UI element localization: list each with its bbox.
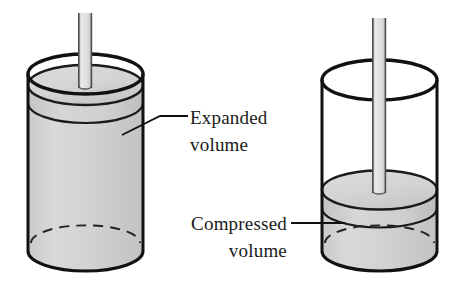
expanded-piston-rod	[78, 13, 92, 89]
diagram-canvas: Expanded volume Compressed volume	[0, 0, 455, 284]
compressed-piston-rod	[372, 18, 386, 194]
expanded-cylinder-group	[28, 13, 143, 271]
compressed-cylinder-group	[322, 18, 437, 271]
expanded-volume-label-line2: volume	[190, 134, 248, 155]
piston-volume-figure: Expanded volume Compressed volume	[0, 0, 455, 284]
expanded-gas-body	[28, 103, 143, 271]
compressed-volume-label-line2: volume	[229, 240, 287, 261]
expanded-volume-label-line1: Expanded	[190, 107, 268, 128]
compressed-volume-label-line1: Compressed	[191, 213, 287, 234]
